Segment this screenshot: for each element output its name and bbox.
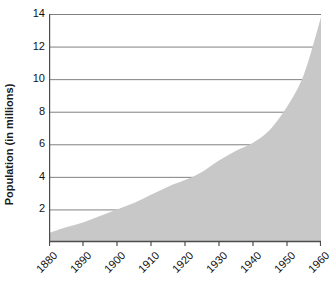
population-area-chart: Population (in millions) 2468101214 1880…: [0, 0, 335, 289]
x-tick-label-text: 1880: [30, 249, 60, 279]
x-tick-label-text: 1900: [98, 249, 128, 279]
x-tick-label-1930: 1930: [200, 249, 230, 279]
x-tick-label-1950: 1950: [268, 249, 298, 279]
x-tick-label-text: 1890: [64, 249, 94, 279]
x-tick-label-text: 1950: [268, 249, 298, 279]
x-tick-label-1920: 1920: [166, 249, 196, 279]
x-tick-label-text: 1910: [132, 249, 162, 279]
x-tick-label-1890: 1890: [64, 249, 94, 279]
x-tick-label-1960: 1960: [302, 249, 332, 279]
x-tick-label-1900: 1900: [98, 249, 128, 279]
x-tick-label-1880: 1880: [30, 249, 60, 279]
x-axis-tick-labels: 188018901900191019201930194019501960: [0, 0, 335, 289]
x-tick-label-text: 1930: [200, 249, 230, 279]
x-tick-label-1940: 1940: [234, 249, 264, 279]
x-tick-label-text: 1960: [302, 249, 332, 279]
x-tick-label-text: 1920: [166, 249, 196, 279]
x-tick-label-text: 1940: [234, 249, 264, 279]
x-tick-label-1910: 1910: [132, 249, 162, 279]
